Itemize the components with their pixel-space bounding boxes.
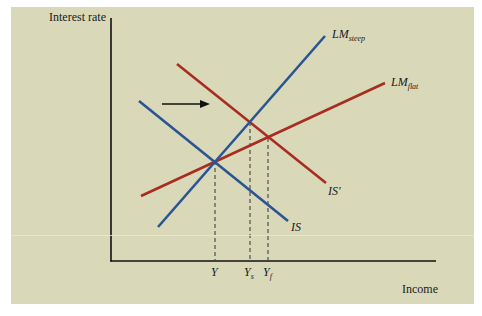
tick-label-yf: Yf <box>263 265 272 281</box>
y-axis-title: Interest rate <box>49 10 106 25</box>
tick-ys-main: Y <box>244 265 251 279</box>
scan-artifact-line <box>11 235 474 236</box>
is-label: IS <box>291 220 301 235</box>
is-prime-label: IS' <box>328 184 341 199</box>
lm-flat-curve <box>141 83 385 196</box>
tick-yf-sub: f <box>270 272 272 281</box>
is-lm-diagram <box>0 0 482 316</box>
is-prime-curve <box>177 64 326 183</box>
tick-yf-main: Y <box>263 265 270 279</box>
tick-label-y: Y <box>211 265 218 280</box>
lm-steep-label: LMsteep <box>332 27 365 43</box>
lm-flat-label-main: LM <box>391 75 408 89</box>
tick-label-ys: Ys <box>244 265 254 281</box>
lm-steep-label-sub: steep <box>349 34 365 43</box>
shift-arrow-icon <box>162 100 210 108</box>
lm-steep-curve <box>158 36 325 227</box>
lm-flat-label: LMflat <box>391 75 418 91</box>
tick-ys-sub: s <box>251 272 254 281</box>
x-axis-title: Income <box>402 282 438 297</box>
is-curve <box>139 101 288 221</box>
lm-flat-label-sub: flat <box>408 82 419 91</box>
lm-steep-label-main: LM <box>332 27 349 41</box>
tick-y-main: Y <box>211 265 218 279</box>
